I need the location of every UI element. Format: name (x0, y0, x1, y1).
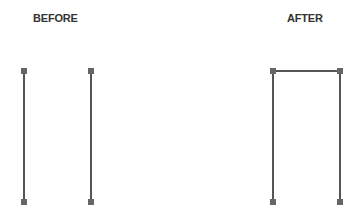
diagram-canvas (0, 0, 362, 215)
handle-icon[interactable] (21, 68, 27, 74)
handle-icon[interactable] (270, 68, 276, 74)
handle-icon[interactable] (337, 199, 343, 205)
handle-icon[interactable] (88, 199, 94, 205)
handle-icon[interactable] (270, 199, 276, 205)
handle-icon[interactable] (337, 68, 343, 74)
handle-icon[interactable] (21, 199, 27, 205)
handle-icon[interactable] (88, 68, 94, 74)
after-group (270, 68, 343, 205)
before-group (21, 68, 94, 205)
